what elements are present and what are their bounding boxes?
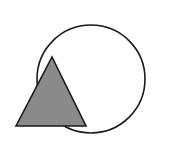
canvas-background: [0, 0, 184, 155]
shapes-diagram: [0, 0, 184, 155]
figure-canvas: [0, 0, 184, 155]
